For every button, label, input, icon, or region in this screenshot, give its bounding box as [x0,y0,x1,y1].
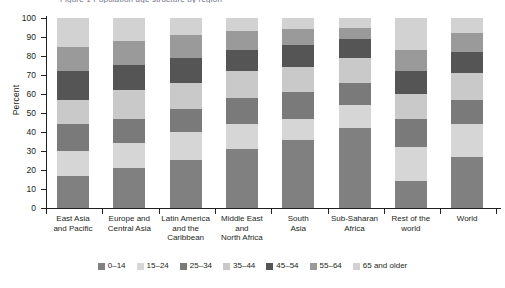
bar-segment[interactable] [57,124,89,151]
x-axis-category-label: Europe andCentral Asia [98,214,160,233]
bar-segment[interactable] [339,83,371,106]
legend-item-2[interactable]: 15–24 [137,262,169,270]
bar-segment[interactable] [451,33,483,52]
bar-segment[interactable] [395,71,427,94]
bar-7[interactable] [395,18,427,208]
bar-segment[interactable] [282,67,314,92]
bar-segment[interactable] [339,105,371,128]
x-axis-category-label: East Asiaand Pacific [42,214,104,233]
bar-segment[interactable] [170,109,202,132]
legend-label: 25–34 [190,262,212,270]
bar-segment[interactable] [226,31,258,50]
legend-item-3[interactable]: 25–34 [180,262,212,270]
bar-segment[interactable] [339,128,371,208]
bar-segment[interactable] [339,18,371,28]
legend-swatch-icon [180,263,187,270]
bar-segment[interactable] [282,119,314,140]
y-axis-tick-label: 60 [14,90,36,99]
bar-segment[interactable] [113,119,145,144]
legend-item-5[interactable]: 45–54 [266,262,298,270]
bar-segment[interactable] [226,98,258,125]
bar-segment[interactable] [226,18,258,31]
legend-swatch-icon [266,263,273,270]
bar-6[interactable] [339,18,371,208]
bar-segment[interactable] [170,18,202,35]
x-axis-category-label: World [436,214,498,224]
legend-item-7[interactable]: 65 and older [353,262,407,270]
legend-label: 45–54 [276,262,298,270]
bar-5[interactable] [282,18,314,208]
legend-swatch-icon [137,263,144,270]
bar-segment[interactable] [170,58,202,83]
legend-label: 35–44 [233,262,255,270]
bar-segment[interactable] [339,39,371,58]
bar-segment[interactable] [451,73,483,100]
bar-segment[interactable] [57,151,89,176]
bar-segment[interactable] [170,132,202,161]
y-axis-tick-label: 30 [14,147,36,156]
bar-segment[interactable] [57,100,89,125]
x-axis-category-label: Middle EastandNorth Africa [211,214,273,243]
bar-segment[interactable] [282,92,314,119]
bar-segment[interactable] [282,29,314,44]
legend-item-1[interactable]: 0–14 [98,262,126,270]
bar-2[interactable] [113,18,145,208]
legend-item-4[interactable]: 35–44 [223,262,255,270]
legend-swatch-icon [310,263,317,270]
bar-segment[interactable] [57,176,89,208]
bar-3[interactable] [170,18,202,208]
y-axis-tick-label: 40 [14,128,36,137]
bar-segment[interactable] [395,18,427,50]
y-axis-tick-label: 100 [14,14,36,23]
x-axis-line [46,208,501,209]
bar-segment[interactable] [282,18,314,29]
legend-label: 65 and older [363,262,407,270]
bar-segment[interactable] [451,52,483,73]
chart-title: Figure 1 Population age structure by reg… [60,0,360,3]
bar-segment[interactable] [113,168,145,208]
bar-segment[interactable] [170,160,202,208]
bar-segment[interactable] [395,119,427,148]
bar-4[interactable] [226,18,258,208]
legend-label: 0–14 [108,262,126,270]
bar-segment[interactable] [282,45,314,68]
bar-segment[interactable] [451,157,483,208]
bar-segment[interactable] [226,124,258,149]
y-axis-tick-label: 0 [14,204,36,213]
legend-swatch-icon [353,263,360,270]
bar-segment[interactable] [451,100,483,125]
bar-segment[interactable] [113,18,145,41]
x-axis-category-label: Sub-SaharanAfrica [324,214,386,233]
bar-segment[interactable] [113,90,145,119]
bar-segment[interactable] [451,124,483,156]
bar-segment[interactable] [451,18,483,33]
bar-segment[interactable] [395,50,427,71]
bar-segment[interactable] [395,181,427,208]
bar-1[interactable] [57,18,89,208]
bar-segment[interactable] [57,18,89,47]
bar-segment[interactable] [170,83,202,110]
x-axis-category-label: SouthAsia [267,214,329,233]
y-axis-tick-label: 90 [14,33,36,42]
y-axis-tick-label: 80 [14,52,36,61]
bar-segment[interactable] [339,28,371,39]
bar-segment[interactable] [339,58,371,83]
y-axis-tick-label: 70 [14,71,36,80]
bar-segment[interactable] [57,71,89,100]
bar-segment[interactable] [226,149,258,208]
bar-segment[interactable] [170,35,202,58]
legend-label: 15–24 [147,262,169,270]
bar-segment[interactable] [282,140,314,208]
bar-segment[interactable] [113,41,145,66]
bar-segment[interactable] [395,147,427,181]
bar-8[interactable] [451,18,483,208]
bar-segment[interactable] [226,71,258,98]
bar-segment[interactable] [395,94,427,119]
legend-item-6[interactable]: 55–64 [310,262,342,270]
y-axis-tick-label: 10 [14,185,36,194]
bar-segment[interactable] [113,65,145,90]
bar-segment[interactable] [113,143,145,168]
bar-segment[interactable] [57,47,89,72]
bar-segment[interactable] [226,50,258,71]
legend-label: 55–64 [320,262,342,270]
